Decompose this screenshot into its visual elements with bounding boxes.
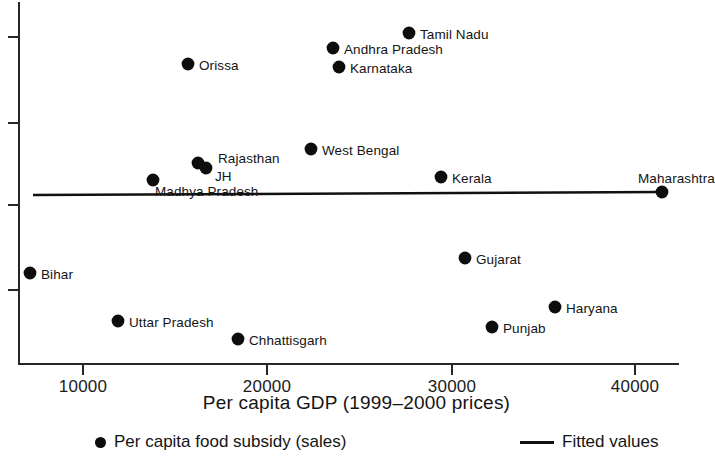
solid-line-icon <box>520 441 554 444</box>
data-point-label: Orissa <box>199 59 239 73</box>
data-point-marker <box>333 61 346 74</box>
data-point-marker <box>435 171 448 184</box>
data-point-label: Haryana <box>566 302 618 316</box>
data-point-marker <box>327 42 340 55</box>
data-point-marker <box>24 267 37 280</box>
legend-fit-label: Fitted values <box>562 432 658 452</box>
data-point-label: Punjab <box>503 322 546 336</box>
data-point-marker <box>549 301 562 314</box>
x-axis-title: Per capita GDP (1999–2000 prices) <box>0 392 713 414</box>
data-point-marker <box>486 321 499 334</box>
legend-entry-points: Per capita food subsidy (sales) <box>95 432 346 452</box>
data-point-marker <box>232 333 245 346</box>
legend-points-label: Per capita food subsidy (sales) <box>114 432 346 452</box>
data-point-label: Andhra Pradesh <box>344 43 443 57</box>
data-point-marker <box>305 143 318 156</box>
data-point-marker <box>182 58 195 71</box>
data-point-label: Uttar Pradesh <box>129 316 214 330</box>
axes-group <box>8 3 678 375</box>
data-point-marker <box>403 27 416 40</box>
chart-legend: Per capita food subsidy (sales) Fitted v… <box>0 432 713 456</box>
data-point-label: Maharashtra <box>638 172 715 186</box>
data-point-label: JH <box>215 170 232 184</box>
x-axis-ticks <box>83 364 635 375</box>
data-point-label: Karnataka <box>350 62 412 76</box>
legend-entry-fitted: Fitted values <box>520 432 658 452</box>
data-point-label: Tamil Nadu <box>420 28 489 42</box>
data-point-marker <box>656 186 669 199</box>
filled-circle-icon <box>95 437 106 448</box>
data-point-label: Kerala <box>452 172 492 186</box>
data-points-group <box>24 27 669 346</box>
y-axis-ticks <box>8 37 19 290</box>
data-point-label: Rajasthan <box>218 152 280 166</box>
data-point-marker <box>200 162 213 175</box>
data-point-marker <box>112 315 125 328</box>
fitted-values-line <box>33 192 662 195</box>
data-point-label: West Bengal <box>322 144 399 158</box>
data-point-label: Chhattisgarh <box>249 334 327 348</box>
data-point-marker <box>459 252 472 265</box>
data-point-label: Madhya Pradesh <box>155 185 258 199</box>
fitted-values-line-segment <box>33 192 662 195</box>
data-point-label: Bihar <box>41 268 73 282</box>
data-point-label: Gujarat <box>476 253 521 267</box>
